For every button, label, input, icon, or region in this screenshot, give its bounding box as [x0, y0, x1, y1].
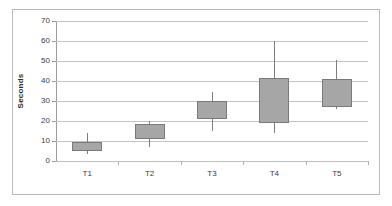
- x-tick-T1: [118, 161, 119, 165]
- x-axis-label-T5: T5: [332, 170, 341, 178]
- y-tick-label-30: 30: [41, 97, 50, 105]
- y-tick-label-10: 10: [41, 137, 50, 145]
- y-tick-10: [52, 141, 56, 142]
- x-tick-T4: [306, 161, 307, 165]
- y-tick-label-50: 50: [41, 57, 50, 65]
- boxplot-T3: [197, 21, 227, 161]
- chart-figure: Seconds 010203040506070 T1T2T3T4T5: [0, 0, 392, 206]
- whisker-lower-T5: [336, 107, 337, 109]
- x-axis-label-T3: T3: [207, 170, 216, 178]
- y-tick-30: [52, 101, 56, 102]
- y-tick-label-20: 20: [41, 117, 50, 125]
- gridline-0: [56, 161, 368, 162]
- boxplot-T1: [72, 21, 102, 161]
- whisker-upper-T4: [274, 41, 275, 78]
- y-tick-label-70: 70: [41, 17, 50, 25]
- boxplot-T4: [259, 21, 289, 161]
- plot-area: 010203040506070: [56, 21, 368, 161]
- boxplot-T5: [322, 21, 352, 161]
- whisker-upper-T5: [336, 60, 337, 79]
- y-axis-title: Seconds: [16, 74, 25, 109]
- x-tick-T2: [181, 161, 182, 165]
- whisker-lower-T4: [274, 123, 275, 133]
- x-axis-label-T2: T2: [145, 170, 154, 178]
- y-tick-60: [52, 41, 56, 42]
- x-tick-T5: [368, 161, 369, 165]
- whisker-lower-T3: [212, 119, 213, 131]
- box-T2: [135, 124, 165, 139]
- box-T5: [322, 79, 352, 106]
- y-tick-40: [52, 81, 56, 82]
- whisker-upper-T1: [87, 133, 88, 142]
- y-tick-50: [52, 61, 56, 62]
- y-tick-label-60: 60: [41, 37, 50, 45]
- y-tick-label-0: 0: [46, 157, 50, 165]
- box-T4: [259, 78, 289, 123]
- box-T1: [72, 142, 102, 151]
- x-axis-label-T4: T4: [270, 170, 279, 178]
- x-axis-label-T1: T1: [83, 170, 92, 178]
- y-tick-70: [52, 21, 56, 22]
- whisker-upper-T3: [212, 92, 213, 101]
- boxplot-T2: [135, 21, 165, 161]
- whisker-lower-T2: [149, 139, 150, 147]
- y-tick-20: [52, 121, 56, 122]
- y-tick-0: [52, 161, 56, 162]
- box-T3: [197, 101, 227, 119]
- whisker-lower-T1: [87, 151, 88, 154]
- y-tick-label-40: 40: [41, 77, 50, 85]
- x-tick-T3: [243, 161, 244, 165]
